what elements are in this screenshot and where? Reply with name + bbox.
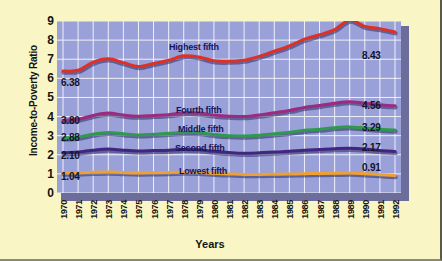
series-label-fourth-fifth: Fourth fifth <box>176 105 222 115</box>
line-chart-svg <box>57 21 401 193</box>
x-axis-tick-1988: 1988 <box>331 200 341 242</box>
y-axis-tick-6: 6 <box>40 72 54 84</box>
y-axis-tick-0: 0 <box>40 187 54 199</box>
x-axis-tick-1982: 1982 <box>240 200 250 242</box>
plot-area: Highest fifthFourth fifthMiddle fifthSec… <box>57 21 405 196</box>
end-value-label-0: 8.43 <box>362 50 381 61</box>
x-axis-tick-1986: 1986 <box>300 200 310 242</box>
x-axis-tick-1984: 1984 <box>270 200 280 242</box>
x-axis-tick-1979: 1979 <box>195 200 205 242</box>
x-axis-tick-1974: 1974 <box>119 200 129 242</box>
x-axis-tick-1991: 1991 <box>376 200 386 242</box>
x-axis-tick-1983: 1983 <box>255 200 265 242</box>
x-axis-tick-1970: 1970 <box>59 200 69 242</box>
y-axis-tick-4: 4 <box>40 111 54 123</box>
x-axis-tick-1975: 1975 <box>134 200 144 242</box>
x-axis-tick-1985: 1985 <box>285 200 295 242</box>
x-axis-tick-1978: 1978 <box>180 200 190 242</box>
x-axis-tick-1980: 1980 <box>210 200 220 242</box>
y-axis-tick-labels: 9876543210 <box>36 0 54 261</box>
x-axis-title: Years <box>0 238 420 250</box>
series-label-lowest-fifth: Lowest fifth <box>179 166 227 176</box>
start-value-label-4: 1.04 <box>61 171 80 182</box>
plot-canvas <box>57 21 401 193</box>
y-axis-tick-8: 8 <box>40 34 54 46</box>
end-value-label-2: 3.29 <box>362 122 381 133</box>
x-axis-tick-labels: 1970197119721973197419751976197719781979… <box>57 200 405 242</box>
series-label-second-fifth: Second fifth <box>175 143 225 153</box>
y-axis-tick-9: 9 <box>40 15 54 27</box>
x-axis-tick-1971: 1971 <box>74 200 84 242</box>
series-label-middle-fifth: Middle fifth <box>178 124 224 134</box>
x-axis-tick-1972: 1972 <box>89 200 99 242</box>
x-axis-tick-1976: 1976 <box>150 200 160 242</box>
y-axis-tick-5: 5 <box>40 91 54 103</box>
x-axis-tick-1989: 1989 <box>346 200 356 242</box>
chart-figure: Income-to-Poverty Ratio 9876543210 Highe… <box>0 0 442 261</box>
x-axis-tick-1973: 1973 <box>104 200 114 242</box>
y-axis-tick-2: 2 <box>40 149 54 161</box>
start-value-label-1: 3.80 <box>61 115 80 126</box>
end-value-label-1: 4.56 <box>362 100 381 111</box>
x-axis-tick-1987: 1987 <box>316 200 326 242</box>
series-lowest-fifth <box>63 172 396 177</box>
series-label-highest-fifth: Highest fifth <box>169 42 219 52</box>
y-axis-tick-1: 1 <box>40 168 54 180</box>
y-axis-tick-3: 3 <box>40 130 54 142</box>
x-axis-tick-1977: 1977 <box>165 200 175 242</box>
y-axis-tick-7: 7 <box>40 53 54 65</box>
start-value-label-0: 6.38 <box>61 77 80 88</box>
start-value-label-2: 2.88 <box>61 132 80 143</box>
start-value-label-3: 2.10 <box>61 150 80 161</box>
x-axis-tick-1990: 1990 <box>361 200 371 242</box>
x-axis-tick-1981: 1981 <box>225 200 235 242</box>
end-value-label-4: 0.91 <box>362 162 381 173</box>
x-axis-tick-1992: 1992 <box>391 200 401 242</box>
end-value-label-3: 2.17 <box>362 142 381 153</box>
